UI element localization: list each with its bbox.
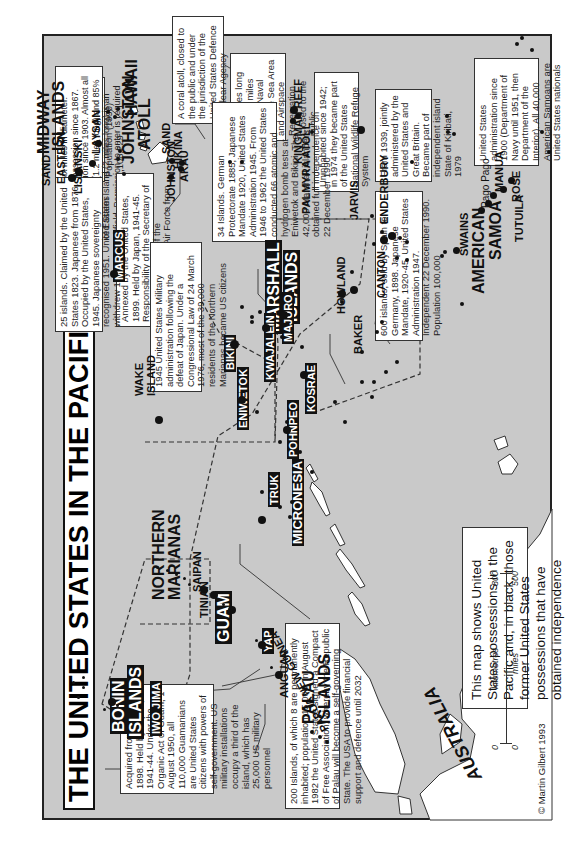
scale-miles-label: miles	[510, 653, 520, 674]
label-wake-2: ISLAND	[145, 355, 157, 396]
scale-km-max: 800	[490, 571, 500, 586]
scale-line	[506, 574, 507, 744]
scale-km-label: kilometres	[490, 648, 500, 689]
label-wake-1: WAKE	[133, 363, 145, 396]
label-baker: BAKER	[352, 315, 364, 354]
label-enderbury: ENDERBURY	[378, 155, 390, 224]
label-samoa: SAMOA	[487, 200, 504, 260]
scale-km-zero: 0	[490, 745, 500, 750]
scale-miles-max: 500	[510, 571, 520, 586]
label-canton: CANTON	[375, 251, 387, 298]
label-guam: GUAM	[215, 591, 232, 644]
note-marcus: 25 islands. Claimed by the United States…	[55, 177, 103, 332]
note-marshall: 34 Islands. German Protectorate 1885, Ja…	[212, 102, 277, 242]
label-bonin-2: ISLANDS	[127, 665, 144, 739]
label-sand-johnston: SAND	[160, 123, 172, 154]
label-rose: ROSE	[510, 171, 522, 202]
label-sand-midway: SAND	[40, 155, 52, 186]
scale-miles-zero: 0	[510, 745, 520, 750]
label-johnston-atoll-1: JOHNSTON	[120, 75, 137, 164]
label-lisianski: LISIANSKI	[72, 140, 84, 194]
label-truk: TRUK	[268, 472, 280, 507]
label-jarvis: JARVIS	[348, 180, 360, 220]
label-eastern: EASTERN	[55, 131, 67, 184]
label-johnston-atoll-2: ATOLL	[136, 98, 153, 150]
label-marianas: MARIANAS	[166, 514, 183, 600]
label-northern: NORTHERN	[150, 509, 167, 600]
label-palmyra-atoll: PALMYRA ATOLL	[300, 123, 312, 214]
label-iwo-jima: IWO JIMA	[150, 681, 162, 736]
label-tutuila: TUTUILA	[513, 195, 525, 242]
map-canvas: THE UNITED STATES IN THE PACIFIC, 1823-1…	[0, 0, 569, 854]
copyright-credit: © Martin Gilbert 1993	[536, 724, 547, 814]
label-laysan: LAYSAN	[90, 110, 102, 154]
label-howland: HOWLAND	[335, 257, 347, 314]
label-kosrae: KOSRAE	[305, 363, 317, 414]
note-marianas: 1945 United States Military administrati…	[150, 242, 202, 392]
note-samoa: United States administration since 1900 …	[474, 58, 539, 166]
label-american: AMERICAN	[470, 208, 487, 294]
